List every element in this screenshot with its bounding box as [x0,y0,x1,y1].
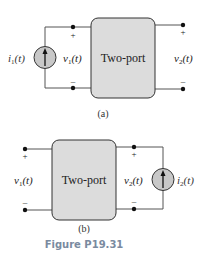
port1-plus-b: + [22,151,27,161]
two-port-label-b: Two-port [62,173,107,187]
current-source-icon [34,47,56,69]
port1-minus-b: – [22,197,28,207]
port2-plus-a: + [180,27,185,37]
source-label-a: i1(t) [8,52,25,66]
v2-label-a: v2(t) [174,52,193,66]
figure-canvas: Two-port + – + – i1(t) v1(t) v2(t) (a) [0,0,206,267]
v2-label-b: v2(t) [124,174,143,188]
port2-plus-b: + [131,149,136,159]
diagram-a: Two-port + – + – i1(t) v1(t) v2(t) (a) [8,18,193,120]
diagram-b: Two-port + – + – v1(t) v2(t) i2(t) (b) [14,140,194,235]
two-port-label-a: Two-port [101,51,146,65]
figure-caption: Figure P19.31 [45,239,124,250]
v1-label-b: v1(t) [14,174,33,188]
port1-plus-a: + [70,30,75,40]
v1-label-a: v1(t) [63,52,82,66]
source-label-b: i2(t) [177,174,194,188]
current-source-icon [152,169,174,191]
port2-minus-a: – [180,76,186,86]
port1-minus-a: – [70,76,76,86]
diagram-a-label: (a) [97,108,108,120]
diagram-b-label: (b) [78,223,90,235]
port2-minus-b: – [131,196,137,206]
